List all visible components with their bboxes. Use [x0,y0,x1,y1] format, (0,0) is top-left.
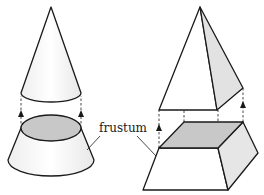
cone-frustum [8,115,94,176]
pyramid-top-piece [159,7,243,110]
frustum-diagram: frustum [0,0,264,195]
frustum-label-group: frustum [87,121,156,156]
cone-frustum-top-face [21,115,81,141]
frustum-label: frustum [99,121,148,135]
leader-line-pyramid [137,136,156,156]
cone-top-piece [21,7,81,102]
pyramid-frustum [143,122,258,190]
leader-line-cone [87,136,100,150]
